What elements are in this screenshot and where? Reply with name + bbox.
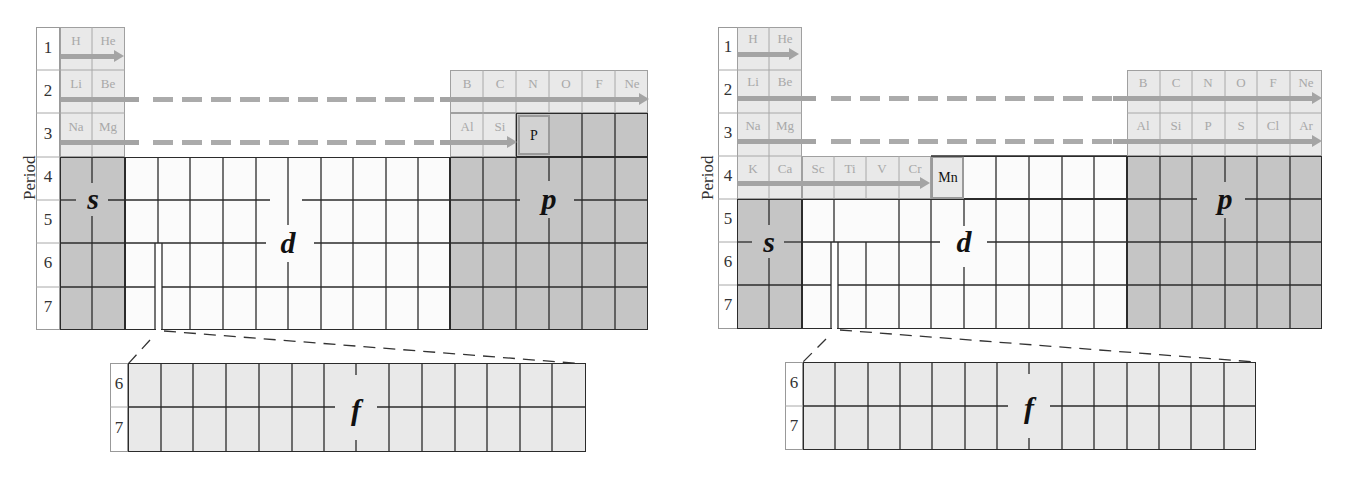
f-period-number: 7 xyxy=(784,416,804,436)
figure-right-manganese: H He Li Be Na Mg K Ca Sc Ti V Cr Mn B C … xyxy=(0,0,1345,478)
block-label-f: f xyxy=(1013,393,1045,423)
f-grid-right xyxy=(0,0,1345,478)
f-period-number: 6 xyxy=(784,373,804,393)
